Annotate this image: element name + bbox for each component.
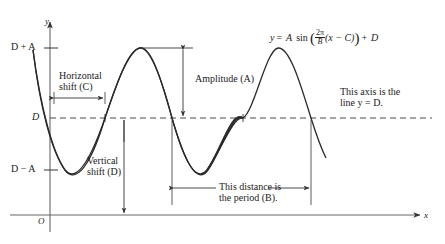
equation-label: y=Asin(2πB(x − C))+D: [270, 29, 380, 46]
tick-label-d-minus-a: D − A: [11, 163, 36, 174]
equation-equals: =: [276, 32, 282, 43]
period-annotation: This distance is the period (B).: [219, 181, 281, 203]
equation-inner: (x − C): [325, 32, 355, 43]
horizontal-shift-annotation: Horizontal shift (C): [59, 70, 102, 92]
tick-label-d-plus-a: D + A: [11, 41, 36, 52]
equation-lhs: y: [270, 32, 274, 43]
vertical-shift-annotation: Vertical shift (D): [87, 155, 121, 177]
vertical-shift-line2: shift (D): [87, 166, 121, 177]
tick-label-d: D: [32, 111, 39, 122]
axis-note-line2: line y = D.: [340, 97, 400, 108]
equation-frac-denominator: B: [315, 38, 325, 46]
axis-note-line1: This axis is the: [340, 86, 400, 97]
vertical-shift-line1: Vertical: [87, 155, 121, 166]
y-axis-label: y: [45, 16, 49, 26]
axis-note-annotation: This axis is the line y = D.: [340, 86, 400, 108]
equation-vertical-shift: D: [371, 32, 378, 43]
amplitude-annotation: Amplitude (A): [195, 73, 254, 84]
x-axis-label: x: [424, 210, 428, 220]
equation-sin: sin: [296, 32, 308, 43]
sine-curve-join: [207, 118, 243, 170]
equation-amplitude: A: [286, 32, 292, 43]
sine-curve-seg2: [207, 48, 326, 170]
sine-curve-left: [33, 48, 243, 174]
sine-curve-seg1: [33, 48, 243, 175]
equation-fraction: 2πB: [315, 29, 325, 46]
equation-close-paren: ): [354, 32, 359, 46]
period-line1: This distance is: [219, 181, 281, 192]
horizontal-shift-line1: Horizontal: [59, 70, 102, 81]
origin-label: O: [38, 216, 45, 226]
horizontal-shift-line2: shift (C): [59, 81, 102, 92]
figure-canvas: y x O D + A D D − A Horizontal shift (C)…: [0, 0, 445, 244]
period-line2: the period (B).: [219, 192, 281, 203]
equation-plus: +: [361, 32, 367, 43]
